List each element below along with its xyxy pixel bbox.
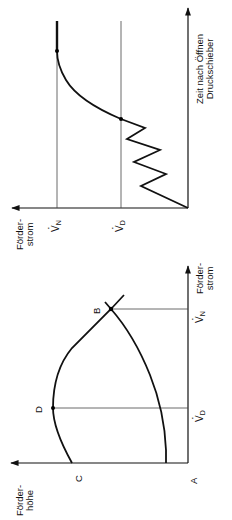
top-x-axis-label-line2: Druckschieber [205,34,215,104]
top-vn-symbol: V [50,225,61,232]
bottom-vn-symbol: V [194,316,205,323]
top-vd-symbol: V [114,225,125,232]
bottom-x-axis-label: Förder- strom [195,263,215,294]
top-vd-label: VD [115,220,128,232]
pump-curve [53,295,124,463]
bottom-y-axis-label-line2: höhe [25,485,35,516]
top-flow-curve [57,21,188,208]
point-a-label: A [189,478,199,484]
top-y-axis-label-line2: strom [25,219,35,250]
bottom-vd-tick-label: VD [195,410,208,422]
bottom-x-axis-label-line2: strom [205,263,215,294]
top-x-axis-label: Zeit nach Öffnen Druckschieber [195,34,215,104]
top-vd-point [119,117,123,121]
top-vn-point [55,49,59,53]
point-d-marker [51,406,55,410]
bottom-vn-tick-label: VN [195,311,208,323]
top-vn-label: VN [51,220,64,232]
system-curve [105,302,166,463]
point-b-label: B [92,308,102,314]
point-c-label: C [74,475,84,482]
bottom-vd-symbol: V [194,415,205,422]
top-y-axis-label: Förder- strom [15,219,35,250]
point-d-label: D [34,406,44,413]
bottom-y-axis-label: Förder- höhe [15,485,35,516]
top-chart [12,8,188,208]
point-b-marker [109,307,113,311]
bottom-chart [11,266,188,463]
